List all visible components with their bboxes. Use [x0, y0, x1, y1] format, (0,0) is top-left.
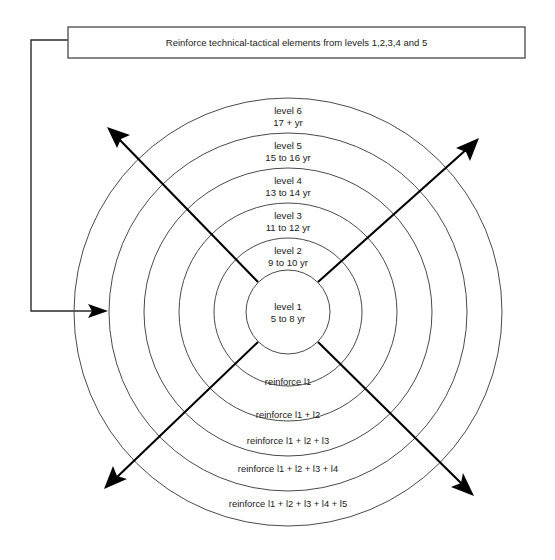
ring-2-reinforce-label: reinforce l1	[265, 376, 311, 387]
feedback-connector-line	[31, 40, 92, 311]
growth-arrow-nw-line	[117, 137, 258, 282]
growth-arrow-se-line	[318, 342, 463, 485]
ring-6-age-label: 17 + yr	[273, 117, 303, 128]
growth-arrow-ne-line	[318, 148, 468, 282]
ring-3-level-label: level 3	[274, 210, 302, 221]
growth-arrow-nw-head	[107, 127, 130, 148]
ring-4-reinforce-label: reinforce l1 + l2 + l3	[247, 435, 329, 446]
banner-label: Reinforce technical-tactical elements fr…	[166, 37, 427, 48]
training-levels-diagram: Reinforce technical-tactical elements fr…	[0, 0, 555, 560]
diagram-canvas: Reinforce technical-tactical elements fr…	[0, 0, 555, 560]
ring-4-level-label: level 4	[274, 175, 302, 186]
ring-5-age-label: 15 to 16 yr	[265, 152, 311, 163]
center-age-label: 5 to 8 yr	[271, 313, 306, 324]
ring-3-age-label: 11 to 12 yr	[266, 222, 311, 233]
ring-2-level-label: level 2	[274, 245, 302, 256]
center-level-label: level 1	[274, 301, 302, 312]
ring-5-level-label: level 5	[274, 140, 302, 151]
growth-arrow-sw-line	[115, 342, 258, 479]
ring-3-reinforce-label: reinforce l1 + l2	[256, 409, 320, 420]
ring-6-reinforce-label: reinforce l1 + l2 + l3 + l4 + l5	[229, 498, 347, 509]
ring-5-reinforce-label: reinforce l1 + l2 + l3 + l4	[238, 463, 338, 474]
ring-circle-1-center	[246, 270, 330, 354]
growth-arrow-ne-head	[456, 138, 479, 161]
ring-4-age-label: 13 to 14 yr	[265, 187, 311, 198]
ring-2-age-label: 9 to 10 yr	[268, 257, 309, 268]
ring-6-level-label: level 6	[274, 105, 302, 116]
